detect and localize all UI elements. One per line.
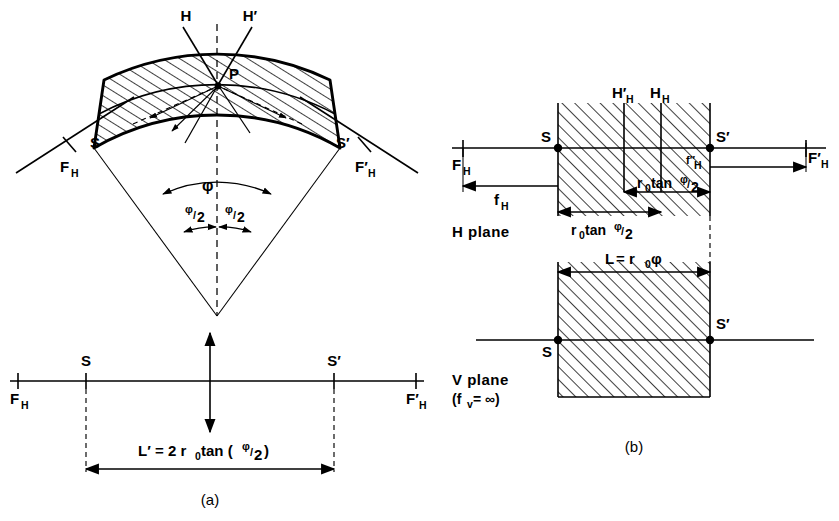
label-focal-right-sector: F′ H: [355, 158, 376, 179]
subtitle-v-plane: (f v = ∞): [452, 391, 500, 410]
svg-text:H: H: [626, 93, 634, 105]
panel-b-v-plane: L = r 0 φ S S′ V plane (f v = ∞) (b): [452, 250, 814, 455]
svg-text:/: /: [193, 209, 196, 221]
svg-text:(f: (f: [452, 391, 462, 407]
sector-arm-left: [94, 148, 217, 316]
v-plane-s-prime-dot: [706, 336, 714, 344]
svg-text:/: /: [621, 225, 624, 237]
svg-text:F′: F′: [406, 390, 419, 407]
v-plane-hatching: [558, 262, 710, 397]
angle-arc-phi-half-right: [219, 227, 251, 232]
sector-arm-right: [217, 148, 340, 316]
svg-text:2: 2: [237, 209, 245, 225]
svg-text:2: 2: [197, 209, 205, 225]
label-angle-phi-half-left: φ / 2: [185, 203, 205, 225]
label-ray-h-prime: H′: [243, 7, 258, 24]
title-h-plane: H plane: [452, 223, 510, 240]
svg-text:H: H: [821, 158, 829, 170]
label-r0tan-left: r 0 tan φ / 2: [571, 220, 633, 242]
panel-a-sector: H H′ P S S′ F H F′ H φ φ / 2 φ / 2: [16, 7, 418, 316]
label-principal-plane-right: H H: [650, 84, 670, 105]
point-p-marker: [215, 83, 222, 90]
svg-text:= r: = r: [616, 250, 635, 267]
svg-text:L: L: [605, 250, 614, 267]
svg-text:H: H: [71, 167, 79, 179]
v-plane-s-dot: [554, 336, 562, 344]
svg-text:H: H: [650, 84, 661, 101]
label-focal-right-axis: F′ H: [406, 390, 427, 411]
label-f-h-plane-right: F′ H: [808, 149, 829, 170]
svg-text:H: H: [662, 93, 670, 105]
svg-text:/: /: [233, 209, 236, 221]
svg-text:2: 2: [691, 179, 699, 195]
svg-text:r: r: [571, 222, 577, 238]
svg-text:φ: φ: [185, 203, 193, 215]
svg-text:2: 2: [625, 226, 633, 242]
label-focal-left-sector: F H: [60, 158, 79, 179]
svg-text:tan (: tan (: [201, 442, 233, 459]
h-plane-s-dot: [554, 144, 562, 152]
svg-text:φ: φ: [651, 250, 662, 267]
label-dimension-l-prime: L′ = 2 r 0 tan ( φ / 2 ): [138, 440, 269, 463]
label-s-prime-v-plane: S′: [716, 315, 730, 332]
label-s-sector: S: [90, 134, 100, 151]
svg-text:H′: H′: [612, 84, 627, 101]
svg-text:H: H: [501, 200, 509, 212]
label-s-prime-axis: S′: [327, 352, 341, 369]
svg-text:F: F: [452, 156, 461, 173]
label-s-prime-sector: S′: [336, 134, 350, 151]
caption-b: (b): [625, 438, 643, 455]
label-principal-plane-left: H′ H: [612, 84, 634, 105]
svg-text:2: 2: [254, 446, 262, 463]
label-angle-phi: φ: [202, 177, 213, 194]
svg-text:f: f: [494, 191, 500, 208]
svg-text:r: r: [637, 175, 643, 191]
figure-root: H H′ P S S′ F H F′ H φ φ / 2 φ / 2: [0, 0, 839, 521]
svg-text:F′: F′: [355, 158, 368, 175]
svg-text:H: H: [21, 399, 29, 411]
label-angle-phi-half-right: φ / 2: [225, 203, 245, 225]
h-plane-s-prime-dot: [706, 144, 714, 152]
panel-b-h-plane: H′ H H H S S′ F H F′ H f H f″ H: [452, 84, 829, 262]
svg-text:F: F: [10, 390, 19, 407]
label-point-p: P: [229, 65, 239, 82]
svg-text:φ: φ: [242, 440, 250, 452]
label-s-prime-h-plane: S′: [716, 128, 730, 145]
svg-text:H: H: [694, 159, 702, 171]
svg-text:tan: tan: [651, 175, 672, 191]
svg-text:= 2 r: = 2 r: [155, 442, 186, 459]
svg-text:L′: L′: [138, 442, 151, 459]
svg-text:H: H: [463, 165, 471, 177]
svg-text:/: /: [687, 178, 690, 190]
svg-text:H: H: [419, 399, 427, 411]
svg-text:tan: tan: [585, 222, 606, 238]
label-s-axis: S: [81, 352, 91, 369]
caption-a: (a): [201, 491, 219, 508]
svg-text:/: /: [250, 446, 253, 458]
svg-text:= ∞): = ∞): [473, 391, 500, 407]
angle-arc-phi-half-left: [184, 227, 216, 232]
label-s-h-plane: S: [541, 128, 551, 145]
svg-text:): ): [264, 442, 269, 459]
title-v-plane: V plane: [452, 371, 509, 388]
label-ray-h: H: [181, 7, 192, 24]
label-s-v-plane: S: [542, 343, 552, 360]
panel-a-axis: S S′ F H F′ H L′ = 2 r 0 tan ( φ / 2 ) (…: [10, 333, 427, 508]
svg-text:F: F: [60, 158, 69, 175]
svg-text:φ: φ: [225, 203, 233, 215]
label-focal-distance-left: f H: [494, 191, 509, 212]
svg-text:F′: F′: [808, 149, 821, 166]
svg-text:H: H: [368, 167, 376, 179]
label-focal-left-axis: F H: [10, 390, 29, 411]
label-f-h-plane-left: F H: [452, 156, 471, 177]
